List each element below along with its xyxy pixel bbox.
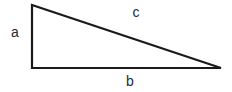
side-b-label: b <box>126 73 134 89</box>
triangle-shape <box>32 5 221 68</box>
side-a-label: a <box>11 24 19 40</box>
side-c-label: c <box>133 4 140 20</box>
right-triangle-diagram: a b c <box>0 0 232 92</box>
